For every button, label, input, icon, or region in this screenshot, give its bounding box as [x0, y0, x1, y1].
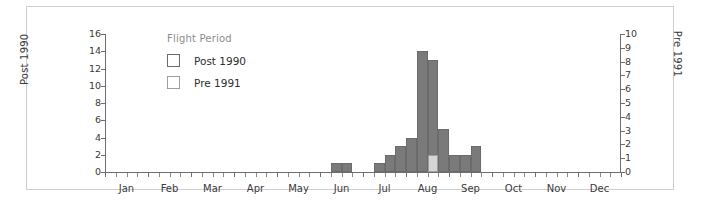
x-axis-tick	[438, 173, 439, 177]
x-axis-label: Jan	[104, 183, 150, 194]
y-axis-right-tick-label: 7	[625, 70, 655, 80]
x-axis-tick	[374, 173, 375, 177]
x-axis-tick	[191, 172, 192, 177]
x-axis-tick	[223, 173, 224, 177]
y-axis-left-line	[105, 34, 106, 173]
x-axis-tick	[213, 173, 214, 177]
x-axis-tick	[234, 172, 235, 177]
y-axis-right-tick-label: 2	[625, 139, 655, 149]
x-axis-tick	[578, 172, 579, 177]
y-axis-left-tick-label: 6	[71, 115, 101, 125]
x-axis-tick	[567, 173, 568, 177]
x-axis-label: Sep	[448, 183, 494, 194]
bar-post-1990	[406, 138, 417, 173]
x-axis-tick	[385, 173, 386, 177]
x-axis-tick	[277, 172, 278, 177]
bar-post-1990	[417, 51, 428, 172]
x-axis-tick	[600, 173, 601, 177]
y-axis-left-tick	[101, 103, 105, 104]
y-axis-right-tick-label: 0	[625, 167, 655, 177]
x-axis-label: Nov	[534, 183, 580, 194]
x-axis-tick	[524, 173, 525, 177]
x-axis-tick	[137, 173, 138, 177]
x-axis-tick	[105, 172, 106, 177]
y-axis-right-tick-label: 4	[625, 112, 655, 122]
bar-post-1990	[342, 163, 353, 172]
x-axis-tick	[342, 173, 343, 177]
x-axis-tick	[514, 173, 515, 177]
y-axis-left-tick-label: 4	[71, 133, 101, 143]
x-axis-tick	[159, 173, 160, 177]
y-axis-left-tick-label: 2	[71, 150, 101, 160]
y-axis-left-tick	[101, 155, 105, 156]
y-axis-right-title: Pre 1991	[672, 31, 683, 77]
x-axis-tick	[428, 173, 429, 177]
x-axis-label: Mar	[190, 183, 236, 194]
x-axis-tick	[406, 172, 407, 177]
x-axis-label: Oct	[491, 183, 537, 194]
x-axis-tick	[148, 172, 149, 177]
x-axis-label: Dec	[577, 183, 623, 194]
y-axis-left-tick-label: 0	[71, 167, 101, 177]
y-axis-right-tick-label: 9	[625, 43, 655, 53]
x-axis-tick	[170, 173, 171, 177]
x-axis-tick	[309, 173, 310, 177]
x-axis-tick	[245, 173, 246, 177]
x-axis-tick	[610, 173, 611, 177]
x-axis-tick	[256, 173, 257, 177]
y-axis-left-tick	[101, 120, 105, 121]
x-axis-label: Apr	[233, 183, 279, 194]
y-axis-left-tick	[101, 51, 105, 52]
bar-post-1990	[460, 155, 471, 172]
x-axis-tick	[460, 173, 461, 177]
y-axis-right-tick-label: 10	[625, 29, 655, 39]
x-axis-tick	[127, 173, 128, 177]
y-axis-left-tick-label: 16	[71, 29, 101, 39]
x-axis-tick	[202, 173, 203, 177]
y-axis-left-title: Post 1990	[19, 34, 30, 85]
y-axis-right-tick-label: 3	[625, 126, 655, 136]
x-axis-tick	[492, 172, 493, 177]
bar-post-1990	[395, 146, 406, 172]
y-axis-left-tick-label: 12	[71, 64, 101, 74]
x-axis-tick	[557, 173, 558, 177]
chart-frame: Post 1990 Pre 1991 Flight Period Post 19…	[26, 6, 674, 190]
bar-post-1990	[374, 163, 385, 172]
x-axis-label: Feb	[147, 183, 193, 194]
bar-post-1990	[471, 146, 482, 172]
x-axis-tick	[535, 172, 536, 177]
plot-area: 0246810121416 012345678910 JanFebMarAprM…	[105, 34, 621, 172]
x-axis-tick	[116, 173, 117, 177]
x-axis-label: Jun	[319, 183, 365, 194]
y-axis-left-tick	[101, 138, 105, 139]
x-axis-tick	[471, 173, 472, 177]
x-axis-tick	[180, 173, 181, 177]
x-axis-tick	[589, 173, 590, 177]
x-axis-tick	[417, 173, 418, 177]
bar-post-1990	[385, 155, 396, 172]
x-axis-label: Aug	[405, 183, 451, 194]
y-axis-right-tick-label: 1	[625, 153, 655, 163]
x-axis-tick	[352, 173, 353, 177]
x-axis-tick	[621, 172, 622, 177]
x-axis-tick	[449, 172, 450, 177]
y-axis-left-tick-label: 8	[71, 98, 101, 108]
y-axis-left-tick	[101, 86, 105, 87]
x-axis-tick	[363, 172, 364, 177]
y-axis-right-tick-label: 8	[625, 57, 655, 67]
bar-post-1990	[438, 129, 449, 172]
x-axis-tick	[503, 173, 504, 177]
x-axis-tick	[288, 173, 289, 177]
x-axis-tick	[395, 173, 396, 177]
bar-post-1990	[331, 163, 342, 172]
x-axis-tick	[320, 172, 321, 177]
x-axis-tick	[266, 173, 267, 177]
y-axis-left-tick	[101, 34, 105, 35]
bar-post-1990	[449, 155, 460, 172]
x-axis-tick	[546, 173, 547, 177]
y-axis-right-tick-label: 5	[625, 98, 655, 108]
x-axis-tick	[299, 173, 300, 177]
x-axis-label: Jul	[362, 183, 408, 194]
y-axis-left-tick-label: 10	[71, 81, 101, 91]
bar-pre-1991	[428, 155, 439, 172]
